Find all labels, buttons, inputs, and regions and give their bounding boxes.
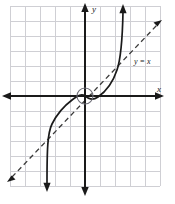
- y-axis-label: y: [91, 4, 96, 14]
- y-axis-arrow-down: [81, 187, 88, 196]
- x-axis-label: x: [156, 84, 161, 94]
- y-axis-arrow-up: [81, 3, 88, 12]
- identity-line-arrow-lower-left: [7, 176, 16, 183]
- x-axis-arrow-left: [2, 92, 11, 99]
- graph-figure: y x y = x: [0, 0, 175, 204]
- cubic-curve-arrow-bottom: [43, 183, 50, 192]
- x-axis: [2, 92, 164, 99]
- identity-line-label: y = x: [133, 57, 151, 66]
- y-axis: [81, 3, 88, 196]
- cubic-curve-arrow-top: [119, 4, 126, 13]
